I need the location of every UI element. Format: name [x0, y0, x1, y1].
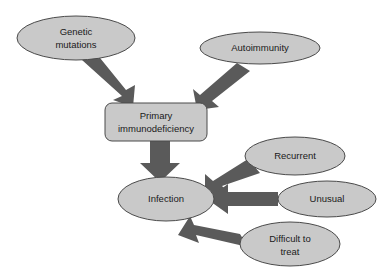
node-autoimmunity-shape[interactable] — [200, 32, 320, 64]
node-infection[interactable]: Infection — [118, 177, 214, 221]
node-primary-immunodeficiency-shape[interactable] — [105, 103, 207, 141]
node-difficult-to-treat-shape[interactable] — [240, 222, 340, 266]
diagram-canvas: Genetic mutations Autoimmunity Primary i… — [0, 0, 385, 280]
node-genetic-mutations[interactable]: Genetic mutations — [17, 16, 135, 60]
node-unusual[interactable]: Unusual — [278, 181, 376, 217]
node-unusual-shape[interactable] — [278, 181, 376, 217]
node-infection-shape[interactable] — [118, 177, 214, 221]
arrow-genetic-to-pid — [82, 53, 135, 107]
node-difficult-to-treat[interactable]: Difficult to treat — [240, 222, 340, 266]
arrow-pid-to-infection — [140, 141, 180, 182]
node-primary-immunodeficiency[interactable]: Primary immunodeficiency — [105, 103, 207, 141]
node-genetic-mutations-shape[interactable] — [17, 16, 135, 60]
flowchart-svg: Genetic mutations Autoimmunity Primary i… — [0, 0, 385, 280]
node-autoimmunity[interactable]: Autoimmunity — [200, 32, 320, 64]
node-recurrent-shape[interactable] — [245, 137, 345, 175]
node-recurrent[interactable]: Recurrent — [245, 137, 345, 175]
arrow-difficult-to-infection — [178, 216, 248, 247]
